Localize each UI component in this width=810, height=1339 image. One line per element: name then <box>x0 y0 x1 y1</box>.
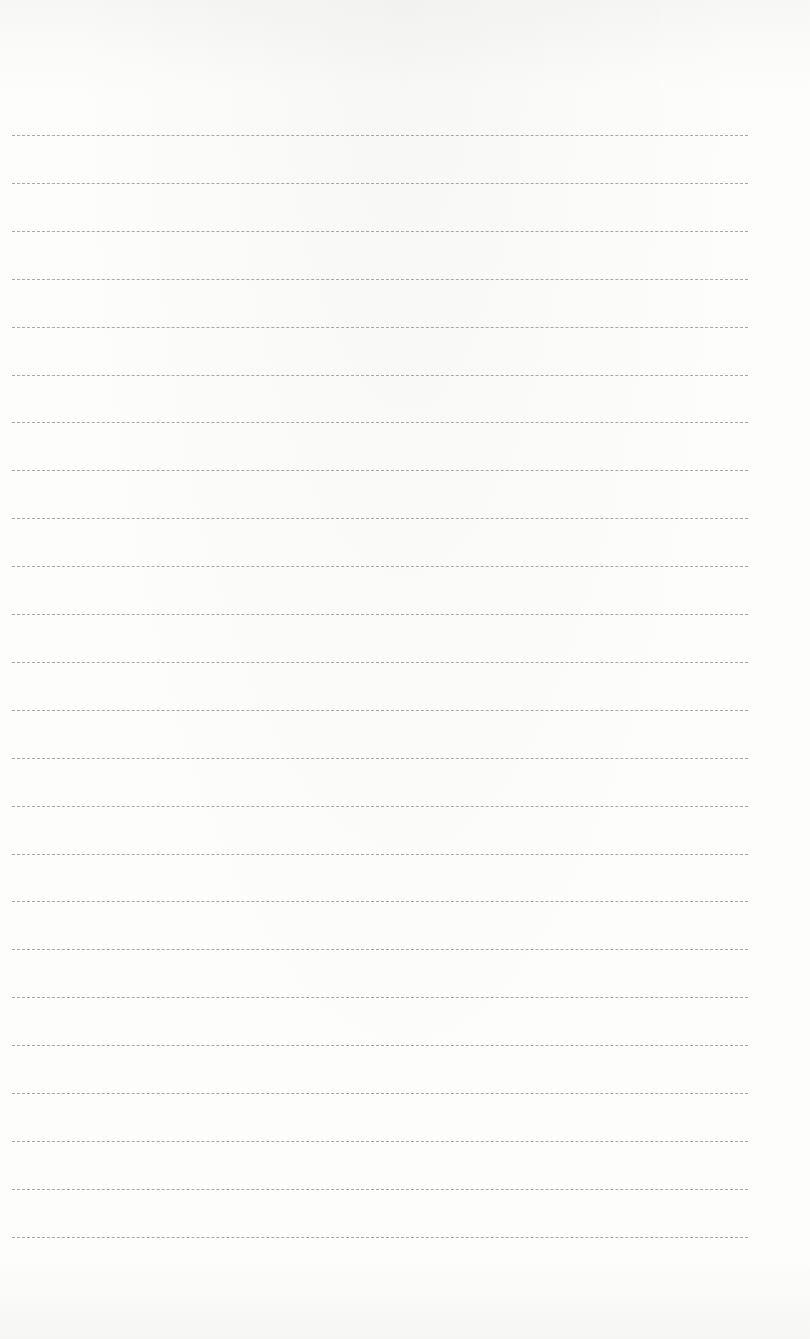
ruled-line <box>12 710 748 711</box>
ruled-line <box>12 183 748 184</box>
ruled-line <box>12 375 748 376</box>
ruled-line <box>12 518 748 519</box>
ruled-line <box>12 806 748 807</box>
ruled-line <box>12 1237 748 1238</box>
ruled-line <box>12 327 748 328</box>
ruled-line <box>12 1093 748 1094</box>
ruled-line <box>12 422 748 423</box>
ruled-line <box>12 135 748 136</box>
ruled-line <box>12 470 748 471</box>
ruled-line <box>12 901 748 902</box>
ruled-line <box>12 662 748 663</box>
ruled-line <box>12 279 748 280</box>
ruled-line <box>12 997 748 998</box>
ruled-line <box>12 758 748 759</box>
ruled-line <box>12 614 748 615</box>
ruled-line <box>12 1045 748 1046</box>
ruled-paper-page <box>0 0 810 1339</box>
ruled-line <box>12 949 748 950</box>
ruled-line <box>12 854 748 855</box>
ruled-line <box>12 231 748 232</box>
ruled-line <box>12 1189 748 1190</box>
ruled-line <box>12 1141 748 1142</box>
ruled-line <box>12 566 748 567</box>
